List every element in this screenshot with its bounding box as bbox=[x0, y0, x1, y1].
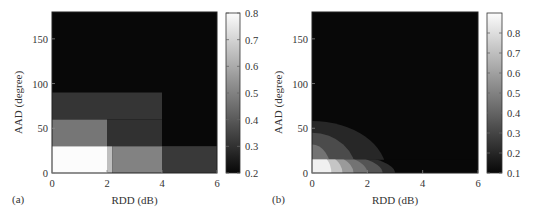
heatmap-cell bbox=[162, 146, 217, 173]
colorbar-tick-label: 0.8 bbox=[507, 28, 520, 39]
colorbar-tick-label: 0.2 bbox=[507, 148, 520, 159]
colorbar-tick-label: 0.2 bbox=[245, 168, 258, 179]
heatmap-panel-b: 0246050100150RDD (dB)AAD (degree)(b)0.10… bbox=[229, 12, 521, 219]
heatmap-cell bbox=[52, 119, 107, 146]
colorbar-tick-label: 0.3 bbox=[245, 141, 258, 152]
colorbar-tick-label: 0.4 bbox=[245, 115, 259, 126]
colorbar-tick-label: 0.5 bbox=[245, 88, 258, 99]
y-tick-label: 50 bbox=[38, 123, 49, 134]
x-tick-label: 0 bbox=[309, 178, 314, 189]
y-tick-label: 150 bbox=[32, 34, 48, 45]
heatmap-cell bbox=[52, 93, 162, 120]
y-tick-label: 100 bbox=[292, 79, 308, 90]
figure: 0246050100150RDD (dB)AAD (degree)(a)0.20… bbox=[0, 0, 533, 219]
x-tick-label: 2 bbox=[365, 178, 370, 189]
colorbar-tick-label: 0.6 bbox=[507, 68, 520, 79]
heatmap-cell bbox=[107, 119, 162, 146]
x-axis-title: RDD (dB) bbox=[111, 194, 157, 207]
colorbar-tick-label: 0.5 bbox=[507, 88, 520, 99]
x-tick-label: 0 bbox=[49, 178, 54, 189]
y-tick-label: 100 bbox=[32, 79, 48, 90]
heatmap-panel-a: 0246050100150RDD (dB)AAD (degree)(a)0.20… bbox=[12, 8, 259, 207]
heatmap-cell bbox=[113, 146, 163, 173]
heatmap-cell bbox=[107, 146, 113, 173]
plot-area bbox=[229, 12, 478, 219]
colorbar-tick-label: 0.7 bbox=[507, 48, 520, 59]
y-tick-label: 50 bbox=[298, 123, 309, 134]
colorbar-tick-label: 0.6 bbox=[245, 61, 258, 72]
x-tick-label: 2 bbox=[104, 178, 109, 189]
panel-label: (a) bbox=[12, 193, 25, 206]
plot-area bbox=[52, 12, 217, 173]
x-tick-label: 4 bbox=[420, 178, 426, 189]
colorbar-tick-label: 0.4 bbox=[507, 108, 521, 119]
y-tick-label: 0 bbox=[43, 168, 48, 179]
heatmap-cell bbox=[52, 146, 107, 173]
y-tick-label: 0 bbox=[303, 168, 308, 179]
y-tick-label: 150 bbox=[292, 34, 308, 45]
x-tick-label: 6 bbox=[475, 178, 480, 189]
colorbar-tick-label: 0.1 bbox=[507, 168, 520, 179]
y-axis-title: AAD (degree) bbox=[272, 71, 285, 135]
colorbar-tick-label: 0.8 bbox=[245, 8, 258, 19]
x-tick-label: 4 bbox=[159, 178, 165, 189]
colorbar-tick-label: 0.3 bbox=[507, 128, 520, 139]
colorbar-tick-label: 0.7 bbox=[245, 35, 258, 46]
y-axis-title: AAD (degree) bbox=[12, 71, 25, 135]
panel-label: (b) bbox=[272, 193, 285, 206]
x-tick-label: 6 bbox=[214, 178, 219, 189]
x-axis-title: RDD (dB) bbox=[372, 194, 418, 207]
